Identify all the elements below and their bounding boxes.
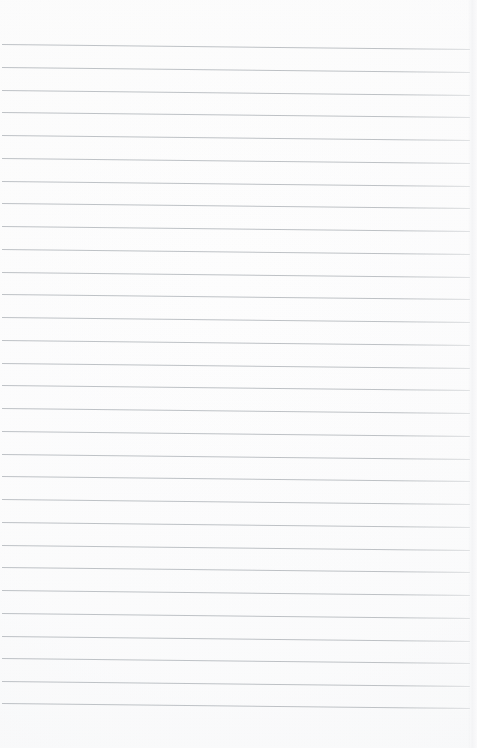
rule-line (2, 135, 470, 141)
rule-line (2, 181, 470, 187)
rule-line (2, 90, 470, 96)
rule-line (2, 476, 470, 482)
paper-vignette-overlay (0, 0, 477, 748)
rule-line (2, 636, 470, 642)
rule-line (2, 112, 470, 118)
scan-edge (468, 0, 477, 748)
rule-line (2, 67, 470, 73)
ruled-lines-group (0, 0, 477, 748)
rule-line (2, 522, 470, 528)
rule-line (2, 499, 470, 505)
rule-line (2, 226, 470, 232)
rule-line (2, 408, 470, 414)
scan-grain-overlay (0, 0, 477, 748)
right-margin (470, 0, 477, 748)
rule-line (2, 317, 470, 323)
scanned-page (0, 0, 477, 748)
rule-line (2, 385, 470, 391)
rule-line (2, 658, 470, 664)
rule-line (2, 431, 470, 437)
rule-line (2, 613, 470, 619)
paper-warmth-overlay (0, 0, 477, 748)
rule-line (2, 294, 470, 300)
rule-line (2, 545, 470, 551)
rule-line (2, 249, 470, 255)
rule-line (2, 454, 470, 460)
top-margin (0, 0, 477, 44)
rule-line (2, 272, 470, 278)
page-content-text (0, 0, 1, 1)
bottom-margin (0, 703, 477, 748)
rule-line (2, 703, 470, 709)
rule-line (2, 203, 470, 209)
rule-line (2, 590, 470, 596)
rule-line (2, 158, 470, 164)
rule-line (2, 681, 470, 687)
rule-line (2, 567, 470, 573)
rule-line (2, 363, 470, 369)
rule-line (2, 340, 470, 346)
rule-line (2, 44, 470, 50)
